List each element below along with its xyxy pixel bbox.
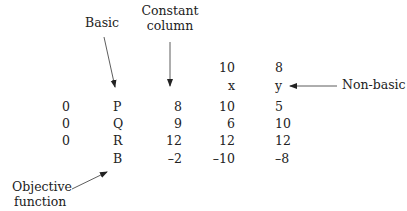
constant-cell: 8 xyxy=(150,100,182,114)
basic-arrow xyxy=(104,37,115,87)
y-cell: –8 xyxy=(275,152,289,166)
cb-cell: 0 xyxy=(62,134,70,148)
x-cell: –10 xyxy=(203,152,235,166)
variable-x: x xyxy=(203,79,235,93)
x-cell: 6 xyxy=(203,117,235,131)
constant-cell: 12 xyxy=(150,134,182,148)
cb-cell: 0 xyxy=(62,117,70,131)
constant-column-label-line1: Constant xyxy=(140,4,200,18)
x-cell: 10 xyxy=(203,100,235,114)
objective-function-label-line2: function xyxy=(14,195,66,209)
x-cell: 12 xyxy=(203,134,235,148)
constant-column-label-line2: column xyxy=(140,19,200,33)
basic-variable-cell: P xyxy=(113,100,121,114)
objective-function-label-line1: Objective xyxy=(12,180,72,194)
y-cell: 10 xyxy=(275,117,291,131)
y-cell: 5 xyxy=(275,100,283,114)
constant-cell: 9 xyxy=(150,117,182,131)
non-basic-label: Non-basic xyxy=(342,78,406,92)
basic-variable-cell: R xyxy=(113,134,122,148)
coefficient-y: 8 xyxy=(275,61,283,75)
cb-cell: 0 xyxy=(62,100,70,114)
basic-variable-cell: Q xyxy=(113,117,123,131)
variable-y: y xyxy=(275,79,282,93)
basic-variable-cell: B xyxy=(113,152,122,166)
basic-label: Basic xyxy=(85,16,119,30)
objective-function-arrow xyxy=(72,172,107,189)
coefficient-x: 10 xyxy=(203,61,235,75)
y-cell: 12 xyxy=(275,134,291,148)
constant-cell: –2 xyxy=(150,152,182,166)
